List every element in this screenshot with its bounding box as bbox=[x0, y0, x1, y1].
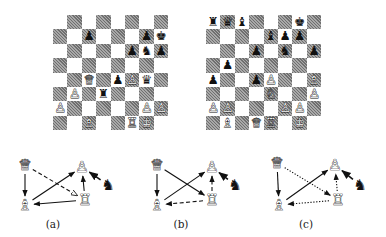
square-e7: ♝ bbox=[264, 29, 278, 43]
square-a2: ♙ bbox=[53, 101, 67, 115]
black-rook-icon: ♜ bbox=[208, 16, 219, 29]
square-d5 bbox=[96, 58, 110, 72]
white-pawn-icon: ♙ bbox=[280, 102, 291, 115]
white-pawn-icon: ♙ bbox=[265, 74, 276, 87]
white-pawn-icon: ♙ bbox=[308, 88, 319, 101]
white-pawn-icon: ♙ bbox=[294, 102, 305, 115]
knight-icon: ♞ bbox=[228, 176, 241, 194]
black-king-icon: ♚ bbox=[294, 16, 305, 29]
square-e4: ♙ bbox=[264, 73, 278, 87]
square-b1 bbox=[67, 116, 81, 130]
square-a1 bbox=[53, 116, 67, 130]
square-g7: ♟ bbox=[292, 29, 306, 43]
square-a4 bbox=[53, 73, 67, 87]
edge-queen-to-bishop bbox=[277, 172, 278, 196]
square-e6 bbox=[264, 44, 278, 58]
edge-rook-to-pawn bbox=[83, 176, 84, 191]
square-f8 bbox=[125, 15, 139, 29]
square-f5 bbox=[278, 58, 292, 72]
square-a8 bbox=[53, 15, 67, 29]
square-b6 bbox=[67, 44, 81, 58]
square-b6 bbox=[220, 44, 234, 58]
square-a6 bbox=[53, 44, 67, 58]
square-c8 bbox=[82, 15, 96, 29]
square-c6 bbox=[82, 44, 96, 58]
square-f1 bbox=[278, 116, 292, 130]
white-king-icon: ♔ bbox=[141, 117, 152, 130]
rook-icon: ♖ bbox=[78, 191, 91, 209]
square-d1 bbox=[96, 116, 110, 130]
white-knight-icon: ♘ bbox=[265, 88, 276, 101]
square-a8: ♜ bbox=[206, 15, 220, 29]
white-pawn-icon: ♙ bbox=[222, 102, 233, 115]
square-a7 bbox=[53, 29, 67, 43]
square-g5 bbox=[292, 58, 306, 72]
square-b3: ♙ bbox=[67, 87, 81, 101]
chessboard-a: ♟♟♚♟♞♟♕♟♙♛♙♜♙♙♙♗♖♔ bbox=[53, 15, 168, 130]
square-f6: ♞ bbox=[278, 44, 292, 58]
square-g8 bbox=[139, 15, 153, 29]
queen-icon: ♕ bbox=[150, 156, 163, 174]
square-f7 bbox=[125, 29, 139, 43]
square-a3 bbox=[53, 87, 67, 101]
white-king-icon: ♔ bbox=[294, 117, 305, 130]
square-e5 bbox=[264, 58, 278, 72]
rook-icon: ♖ bbox=[331, 191, 344, 209]
square-h4: ♗ bbox=[307, 73, 321, 87]
square-c2 bbox=[82, 101, 96, 115]
white-queen-icon: ♕ bbox=[83, 74, 94, 87]
square-h7 bbox=[307, 29, 321, 43]
square-d7 bbox=[96, 29, 110, 43]
square-g2: ♙ bbox=[292, 101, 306, 115]
edge-rook-to-bishop bbox=[166, 201, 203, 204]
square-d8 bbox=[96, 15, 110, 29]
square-g1: ♔ bbox=[292, 116, 306, 130]
white-bishop-icon: ♗ bbox=[308, 74, 319, 87]
bishop-icon: ♗ bbox=[272, 196, 285, 214]
chessboard-b: ♜♛♝♚♝♟♟♟♞♟♟♟♟♙♗♘♙♙♙♙♙♗♕♖♔ bbox=[206, 15, 321, 130]
edge-rook-to-bishop bbox=[288, 201, 329, 204]
square-b2 bbox=[67, 101, 81, 115]
black-pawn-icon: ♟ bbox=[141, 30, 152, 43]
white-pawn-icon: ♙ bbox=[208, 102, 219, 115]
knight-icon: ♞ bbox=[101, 176, 114, 194]
square-e3 bbox=[111, 87, 125, 101]
square-e2 bbox=[264, 101, 278, 115]
black-pawn-icon: ♟ bbox=[127, 45, 138, 58]
pawn-icon: ♙ bbox=[328, 156, 341, 174]
square-e7 bbox=[111, 29, 125, 43]
square-g4: ♛ bbox=[139, 73, 153, 87]
square-a5 bbox=[206, 58, 220, 72]
square-b5: ♟ bbox=[220, 58, 234, 72]
white-pawn-icon: ♙ bbox=[69, 88, 80, 101]
square-h5 bbox=[154, 58, 168, 72]
black-bishop-icon: ♝ bbox=[236, 16, 247, 29]
square-b7 bbox=[220, 29, 234, 43]
bishop-icon: ♗ bbox=[18, 196, 31, 214]
bishop-icon: ♗ bbox=[150, 196, 163, 214]
pawn-icon: ♙ bbox=[205, 158, 218, 176]
square-d4 bbox=[96, 73, 110, 87]
edge-queen-to-rook bbox=[33, 170, 77, 196]
edge-knight-to-pawn bbox=[89, 172, 100, 180]
square-e6 bbox=[111, 44, 125, 58]
square-a4: ♟ bbox=[206, 73, 220, 87]
black-queen-icon: ♛ bbox=[141, 74, 152, 87]
square-c1 bbox=[235, 116, 249, 130]
black-pawn-icon: ♟ bbox=[251, 74, 262, 87]
edge-rook-to-bishop bbox=[34, 201, 76, 205]
square-g8: ♚ bbox=[292, 15, 306, 29]
black-pawn-icon: ♟ bbox=[308, 45, 319, 58]
edge-queen-to-rook bbox=[165, 170, 205, 195]
square-c7 bbox=[235, 29, 249, 43]
square-g1: ♔ bbox=[139, 116, 153, 130]
square-g3 bbox=[292, 87, 306, 101]
square-f5 bbox=[125, 58, 139, 72]
attack-graph-diagrams: ♕♗♙♖♞♕♗♙♖♞♕♗♙♖♞ (a) (b) (c) bbox=[0, 140, 386, 237]
square-d3 bbox=[249, 87, 263, 101]
square-e1: ♖ bbox=[264, 116, 278, 130]
square-a5 bbox=[53, 58, 67, 72]
black-pawn-icon: ♟ bbox=[251, 45, 262, 58]
black-king-icon: ♚ bbox=[155, 30, 166, 43]
square-c3 bbox=[82, 87, 96, 101]
